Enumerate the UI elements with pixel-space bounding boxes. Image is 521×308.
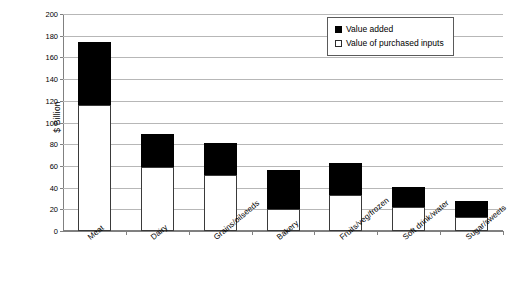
y-tick-label: 80 xyxy=(50,140,58,149)
legend-item-value-added: Value added xyxy=(335,22,444,36)
y-tick-label: 40 xyxy=(50,183,58,192)
bar-segment-value-added[interactable] xyxy=(141,134,174,167)
legend-item-value-purchased: Value of purchased inputs xyxy=(335,36,444,50)
bar-segment-value-added[interactable] xyxy=(267,170,300,209)
y-tick-label: 0 xyxy=(54,227,58,236)
bar-segment-purchased-inputs[interactable] xyxy=(78,105,111,231)
y-tick-label: 20 xyxy=(50,205,58,214)
y-tick-label: 120 xyxy=(45,96,58,105)
y-tick-label: 100 xyxy=(45,118,58,127)
legend: Value added Value of purchased inputs xyxy=(327,17,454,56)
y-tick-label: 140 xyxy=(45,75,58,84)
y-tick-label: 200 xyxy=(45,10,58,19)
bar-segment-purchased-inputs[interactable] xyxy=(141,167,174,231)
y-tick-label: 60 xyxy=(50,161,58,170)
x-tick-mark xyxy=(503,231,504,235)
x-axis-labels: MeatDairyGrains/oilseedsBakeryFruits/veg… xyxy=(63,231,503,308)
bar-group[interactable] xyxy=(78,42,111,231)
bar-segment-value-added[interactable] xyxy=(455,201,488,217)
legend-label-value-added: Value added xyxy=(346,24,393,34)
bar-segment-value-added[interactable] xyxy=(78,42,111,105)
y-tick-label: 160 xyxy=(45,53,58,62)
bar-segment-value-added[interactable] xyxy=(392,187,425,208)
legend-label-value-purchased: Value of purchased inputs xyxy=(346,38,444,48)
legend-swatch-value-purchased-icon xyxy=(335,40,342,47)
bar-segment-value-added[interactable] xyxy=(204,143,237,174)
bar-group[interactable] xyxy=(141,134,174,231)
bar-segment-value-added[interactable] xyxy=(329,163,362,196)
y-tick-label: 180 xyxy=(45,31,58,40)
legend-swatch-value-added-icon xyxy=(335,26,342,33)
stacked-bar-chart: $ Billion 020406080100120140160180200 Me… xyxy=(0,0,521,308)
